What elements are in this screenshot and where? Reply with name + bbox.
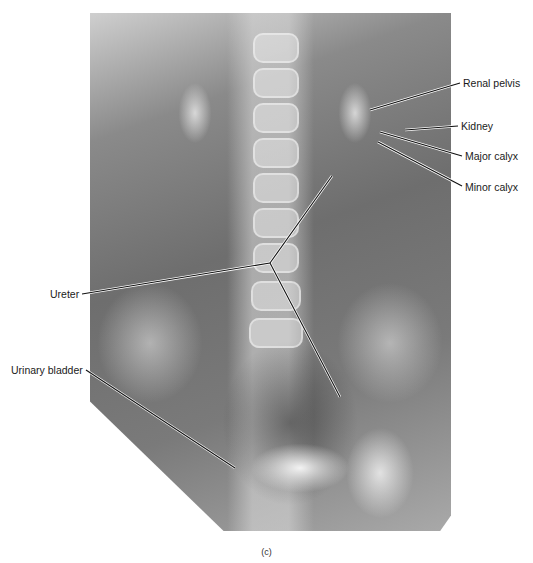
vertebra [253,173,299,203]
xray-image [90,13,451,531]
label-ureter: Ureter [50,288,79,300]
vertebra [253,103,299,133]
label-major-calyx: Major calyx [465,150,518,162]
label-renal-pelvis: Renal pelvis [463,77,520,89]
label-minor-calyx: Minor calyx [465,181,518,193]
figure: Renal pelvis Kidney Major calyx Minor ca… [0,0,533,563]
vertebra [253,68,299,98]
vertebra [253,138,299,168]
vertebra [253,208,299,238]
sacrum [249,318,303,348]
label-urinary-bladder: Urinary bladder [11,364,83,376]
vertebra [251,281,301,311]
label-kidney: Kidney [461,120,493,132]
vertebra [253,33,299,63]
vertebra [253,243,299,273]
figure-caption: (c) [0,547,533,557]
